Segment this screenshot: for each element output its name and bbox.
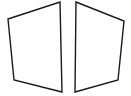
figure-canvas — [0, 0, 131, 96]
quadrilateral-figure — [0, 0, 131, 96]
